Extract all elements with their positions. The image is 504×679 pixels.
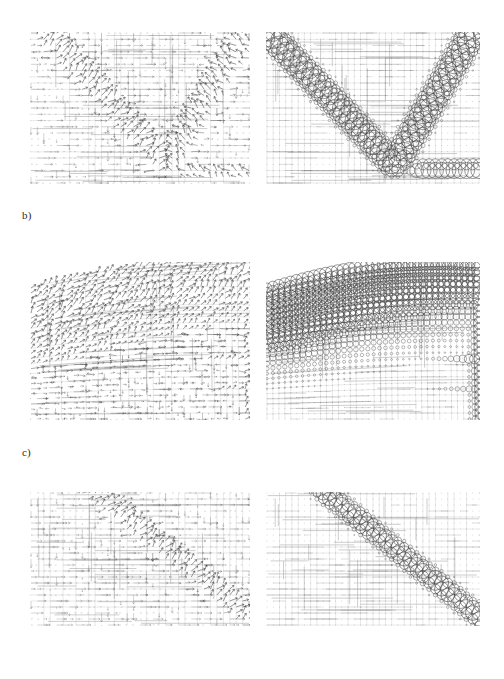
figure-root: b) c): [0, 0, 504, 679]
panel-b-vector-field: [30, 262, 250, 420]
row-label-c: c): [22, 446, 31, 458]
panel-a-vector-field-canvas: [30, 32, 250, 184]
panel-b-vector-field-canvas: [30, 262, 250, 420]
panel-a-bubble-field: [266, 32, 480, 184]
panel-c-vector-field-canvas: [30, 492, 250, 626]
panel-c-bubble-field: [266, 492, 480, 626]
panel-c-bubble-field-canvas: [266, 492, 480, 626]
panel-a-vector-field: [30, 32, 250, 184]
row-label-b: b): [22, 209, 32, 221]
panel-b-bubble-field-canvas: [266, 262, 480, 420]
panel-c-vector-field: [30, 492, 250, 626]
panel-b-bubble-field: [266, 262, 480, 420]
panel-a-bubble-field-canvas: [266, 32, 480, 184]
